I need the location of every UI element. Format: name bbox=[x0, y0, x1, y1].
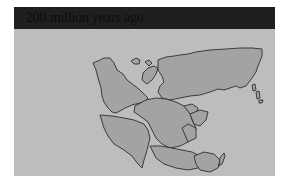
landmass-eurasia bbox=[158, 48, 262, 100]
landmass-arctic-island bbox=[145, 60, 152, 66]
landmass-new-zealand bbox=[219, 153, 225, 166]
landmass-east-island-2 bbox=[256, 91, 260, 99]
pangaea-map bbox=[0, 0, 281, 187]
landmass-south-america bbox=[100, 115, 150, 168]
landmass-greenland bbox=[131, 58, 140, 64]
landmass-australia bbox=[194, 152, 220, 172]
landmass-scandinavia bbox=[142, 66, 158, 84]
landmass-east-island-1 bbox=[252, 84, 256, 91]
landmass-east-island-3 bbox=[259, 100, 263, 103]
